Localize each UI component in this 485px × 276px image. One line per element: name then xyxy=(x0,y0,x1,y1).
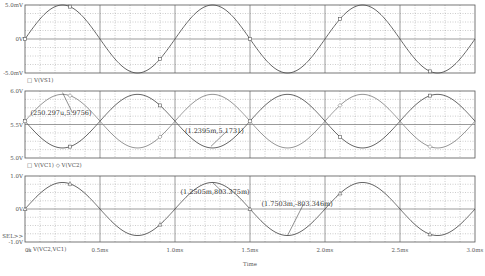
marker-square-icon xyxy=(159,104,162,107)
marker-square-icon xyxy=(429,94,432,97)
plot-panel-middle: 6.0V5.5V5.0V□ V(VC1) ◇ V(VC2)(250.297u,5… xyxy=(10,88,475,168)
y-tick-label: 0V xyxy=(16,206,24,212)
y-tick-label: 1.0V xyxy=(10,173,24,179)
y-tick-label: 6.0V xyxy=(10,88,24,94)
plot-panel-top: 5.0mV0V-5.0mV□ V(VS1) xyxy=(3,2,475,83)
legend-bottom: △ V(VC2,VC1) xyxy=(27,246,66,252)
marker-square-icon xyxy=(249,38,252,41)
legend-middle: □ V(VC1) ◇ V(VC2) xyxy=(27,162,82,168)
marker-square-icon xyxy=(24,38,27,41)
selected-panel-marker: SEL>> xyxy=(2,233,23,239)
plot-panel-bottom: 1.0V0V-1.0VSEL>>△ V(VC2,VC1)(1.2505m,803… xyxy=(2,173,475,252)
x-tick-label: 0s xyxy=(25,247,31,253)
marker-diamond-icon xyxy=(428,145,432,149)
legend-top: □ V(VS1) xyxy=(27,77,53,83)
x-axis: 0s0.5ms1.0ms1.5ms2.0ms2.5ms3.0msTime xyxy=(25,247,484,267)
marker-square-icon xyxy=(69,145,72,148)
x-tick-label: 1.0ms xyxy=(167,247,184,253)
marker-square-icon xyxy=(429,70,432,73)
x-axis-title: Time xyxy=(243,261,257,267)
marker-square-icon xyxy=(159,57,162,60)
y-tick-label: -5.0mV xyxy=(3,70,24,76)
x-tick-label: 1.5ms xyxy=(242,247,259,253)
marker-square-icon xyxy=(339,135,342,138)
y-tick-label: 5.0mV xyxy=(5,2,24,8)
y-tick-label: -1.0V xyxy=(8,239,24,245)
marker-square-icon xyxy=(69,5,72,8)
marker-diamond-icon xyxy=(68,94,72,98)
marker-square-icon xyxy=(339,18,342,21)
y-tick-label: 5.5V xyxy=(10,122,24,128)
probe-chart: 5.0mV0V-5.0mV□ V(VS1)6.0V5.5V5.0V□ V(VC1… xyxy=(0,0,485,276)
x-tick-label: 3.0ms xyxy=(467,247,484,253)
y-tick-label: 0V xyxy=(16,36,24,42)
x-tick-label: 0.5ms xyxy=(92,247,109,253)
x-tick-label: 2.5ms xyxy=(392,247,409,253)
y-tick-label: 5.0V xyxy=(10,155,24,161)
x-tick-label: 2.0ms xyxy=(317,247,334,253)
